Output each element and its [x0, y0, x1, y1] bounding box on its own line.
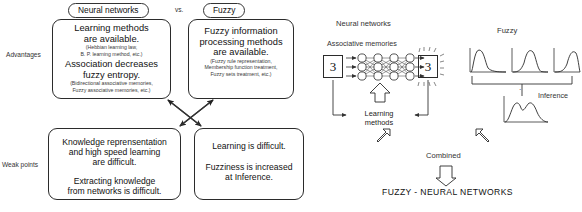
cell-line: are available.	[189, 47, 293, 58]
cell-nn-advantages: Learning methods are available. (Hebbian…	[52, 19, 171, 99]
nn-section-title: Neural networks	[336, 20, 391, 27]
cell-line: from networks is difficult.	[49, 186, 180, 196]
cross-arrows	[168, 100, 213, 126]
cell-line: Learning methods	[53, 23, 170, 34]
nn-input-digit: 3	[323, 55, 343, 78]
learning-methods-label: Learning methods	[348, 110, 410, 127]
cell-line: fuzzy entropy.	[53, 70, 170, 81]
membership-curve-3	[554, 48, 580, 72]
learning-methods-line2: methods	[348, 119, 410, 128]
cell-line: Knowledge reprensentation	[49, 137, 180, 147]
cell-fuzzy-weak-points: Learning is difficult. Fuzziness is incr…	[194, 128, 304, 200]
arrow-fuzzy-weak-to-nn-adv	[168, 100, 201, 126]
learning-bracket-left	[333, 80, 346, 115]
cell-line: Fuzzy associative memories, etc.)	[53, 87, 170, 93]
cell-line: Fuzziness is increased	[195, 162, 303, 172]
cell-line: B. P. learning method, etc.)	[53, 51, 170, 57]
row-label-weak-points: Weak points	[2, 161, 38, 168]
column-header-fuzzy: Fuzzy	[203, 3, 245, 18]
block-arrow-left	[377, 129, 390, 142]
cell-line: processing methods	[189, 37, 293, 48]
column-header-fuzzy-label: Fuzzy	[213, 5, 235, 15]
membership-curve-2	[512, 48, 548, 72]
cell-line: (Bidirectional associative memories,	[53, 80, 170, 86]
inference-label: Inference	[538, 92, 568, 99]
learning-up-block-arrow	[370, 83, 390, 102]
cell-line: are available.	[53, 34, 170, 45]
cell-nn-weak-points: Knowledge reprensentation and high speed…	[48, 128, 181, 200]
column-header-neural-networks: Neural networks	[68, 3, 149, 18]
cell-line: Fuzzy sets treatment, etc.)	[189, 71, 293, 77]
arrow-nn-weak-to-fuzzy-adv	[180, 100, 213, 126]
cell-line: are difficult.	[49, 157, 180, 167]
combined-block-arrows	[377, 129, 489, 142]
result-label: FUZZY - NEURAL NETWORKS	[382, 187, 513, 197]
cell-line: Membership function treatment,	[189, 64, 293, 70]
learning-bracket-right	[415, 80, 428, 115]
column-header-neural-networks-label: Neural networks	[78, 5, 139, 15]
row-label-advantages: Advantages	[6, 51, 41, 58]
cell-line: at Inference.	[195, 172, 303, 182]
cell-line: Association decreases	[53, 59, 170, 70]
combined-label: Combined	[426, 152, 461, 159]
arrow-fuzzy-adv-to-nn-weak	[180, 100, 213, 126]
cell-line: Extracting knowledge	[49, 176, 180, 186]
fuzzy-operator-symbol: ·	[519, 86, 521, 93]
cell-gap	[195, 151, 303, 162]
cell-fuzzy-advantages: Fuzzy information processing methods are…	[188, 19, 294, 99]
neural-network-graph	[346, 54, 424, 80]
fuzzy-section-title: Fuzzy	[497, 27, 517, 34]
membership-curve-1	[470, 48, 506, 72]
combined-down-block-arrow	[436, 166, 456, 186]
nn-edges	[362, 58, 410, 76]
cell-line: and high speed learning	[49, 147, 180, 157]
nn-section-subtitle: Associative memories	[327, 40, 397, 47]
cell-gap	[49, 167, 180, 176]
nn-nodes	[358, 54, 414, 80]
nn-input-arrows	[346, 58, 356, 76]
fuzzy-membership-curves	[470, 48, 580, 72]
arrow-nn-adv-to-fuzzy-weak	[168, 100, 201, 126]
cell-line: Learning is difficult.	[195, 141, 303, 151]
block-arrow-right	[476, 129, 489, 142]
nn-output-digit: 3	[418, 55, 438, 78]
cell-line: Fuzzy information	[189, 26, 293, 37]
vs-label: vs.	[175, 6, 183, 13]
